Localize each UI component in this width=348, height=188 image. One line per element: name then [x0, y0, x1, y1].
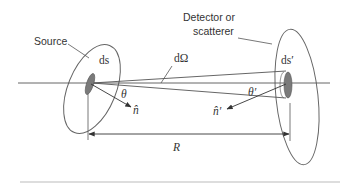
distance-label: R — [173, 142, 180, 154]
n-hat-label: n̂ — [133, 105, 139, 117]
source-patch — [83, 72, 96, 95]
detector-leader-line — [238, 38, 272, 44]
cone-upper-edge — [92, 71, 286, 83]
ds-label: ds — [99, 55, 109, 67]
solid-angle-leader-line — [161, 66, 172, 83]
detector-patch — [284, 72, 292, 98]
source-leader-line — [68, 44, 89, 58]
detector-label-line1: Detector or — [183, 12, 235, 23]
source-label: Source — [34, 36, 67, 47]
solid-angle-label: dΩ — [174, 53, 188, 65]
diagram-canvas — [0, 0, 348, 188]
detector-label-line2: scatterer — [193, 26, 234, 37]
n-hat-prime-label: n̂′ — [213, 106, 221, 118]
theta-label: θ — [121, 89, 127, 101]
ds-prime-label: ds′ — [281, 55, 294, 67]
theta-prime-label: θ′ — [248, 87, 256, 99]
